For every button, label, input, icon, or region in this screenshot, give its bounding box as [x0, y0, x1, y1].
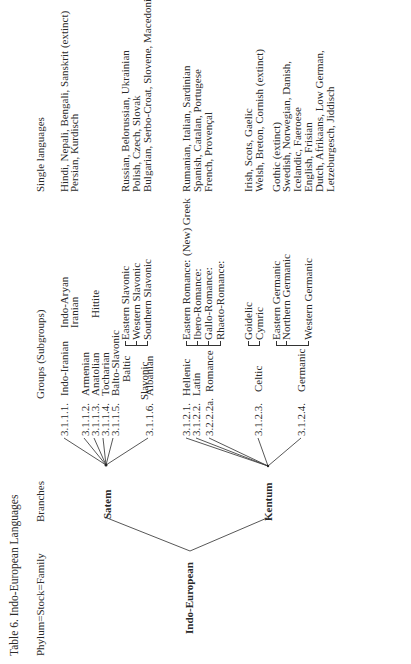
- group-latin: Latin: [190, 373, 202, 396]
- group-code: 3.1.2.2.: [190, 403, 202, 436]
- subgroup-gallo-romance: Gallo-Romance:: [202, 267, 214, 340]
- languages: Persian, Kurdisch: [68, 114, 80, 192]
- group-baltic: Baltic: [120, 356, 132, 382]
- document-page: Table 6. Indo-European Languages Phylum=…: [0, 0, 411, 664]
- group-code: 3.1.2.4.: [295, 403, 307, 436]
- group-code: 3.2.2.2a.: [203, 398, 215, 436]
- languages: Bulgarian, Serbo-Croat, Slovene, Macedon…: [141, 0, 153, 192]
- group-code: 3.1.1.6.: [143, 403, 155, 436]
- group-romance: Romance: [203, 350, 215, 392]
- group-albanian: Albanian: [143, 356, 155, 396]
- languages: French, Provençal: [202, 112, 214, 192]
- languages: Welsh, Breton, Cornish (extinct): [253, 49, 265, 192]
- subgroup-cymric: Cymric: [253, 307, 265, 340]
- group-code: 3.1.1.5.: [109, 403, 121, 436]
- subgroup-iranian: Iranian: [68, 297, 80, 328]
- subgroup-hittite: Hittite: [89, 290, 101, 318]
- group-code: 3.1.1.1.: [58, 403, 70, 436]
- branch-kentum: Kentum: [262, 483, 274, 522]
- group-celtic: Celtic: [252, 366, 264, 392]
- group-indo-iranian: Indo-Iranian: [58, 341, 70, 396]
- subgroup-southern-slavonic: Southern Slavonic: [141, 259, 153, 340]
- subgroup-northern-germanic: Northern Germanic: [280, 254, 292, 340]
- group-code: 3.1.2.3.: [252, 403, 264, 436]
- languages: Letzeburgesch, Jiddisch: [324, 87, 336, 193]
- group-germanic: Germanic: [295, 349, 307, 392]
- subgroup-rhaeto-romance: Rhaeto-Romance:: [214, 261, 226, 340]
- languages: (New) Greek: [180, 198, 192, 256]
- subgroup-western-germanic: Western Germanic: [302, 258, 314, 340]
- branch-satem: Satem: [101, 490, 113, 519]
- root-indo-european: Indo-European: [183, 562, 195, 634]
